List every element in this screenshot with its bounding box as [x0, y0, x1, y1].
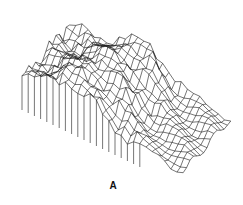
surface-mesh: [22, 24, 231, 173]
mesh-lines: [22, 24, 231, 173]
wireframe-surface-plot: [0, 0, 243, 205]
panel-label: A: [106, 180, 120, 191]
